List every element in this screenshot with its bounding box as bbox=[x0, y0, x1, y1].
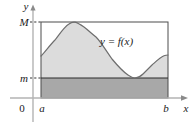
x-axis-arrow-icon bbox=[181, 95, 188, 100]
area-under-curve-shape bbox=[41, 22, 168, 78]
figure-container: y x 0 M m a b y = f(x) bbox=[0, 0, 196, 123]
left-bound-label: a bbox=[39, 102, 45, 114]
max-level-label: M bbox=[18, 16, 29, 28]
y-axis-arrow-icon bbox=[30, 5, 35, 11]
min-level-label: m bbox=[20, 72, 28, 84]
right-bound-label: b bbox=[163, 102, 169, 114]
band-below-min-shape bbox=[41, 78, 168, 98]
calculus-figure: y x 0 M m a b y = f(x) bbox=[0, 0, 196, 123]
function-label: y = f(x) bbox=[99, 35, 133, 48]
y-axis-label: y bbox=[23, 0, 29, 12]
origin-label: 0 bbox=[19, 102, 25, 114]
x-axis-label: x bbox=[183, 102, 189, 114]
